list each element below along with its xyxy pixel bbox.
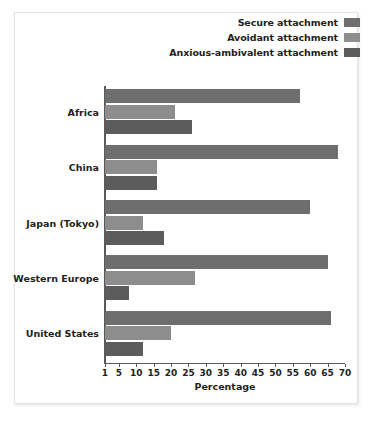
x-axis-tick-label: 1 bbox=[102, 368, 108, 378]
x-axis-tick-label: 35 bbox=[217, 368, 230, 378]
x-axis-tick bbox=[119, 364, 120, 367]
bar bbox=[105, 89, 300, 103]
bar bbox=[105, 286, 129, 300]
bar bbox=[105, 342, 143, 356]
x-axis-tick bbox=[310, 364, 311, 367]
bar bbox=[105, 120, 192, 134]
chart-figure: Secure attachmentAvoidant attachmentAnxi… bbox=[0, 0, 380, 422]
x-axis-tick-label: 65 bbox=[321, 368, 334, 378]
bar bbox=[105, 231, 164, 245]
x-axis-line bbox=[104, 363, 345, 364]
y-axis-category-label: Western Europe bbox=[13, 272, 99, 283]
x-axis-tick bbox=[105, 364, 106, 367]
plot-area: Percentage 1510152025303540455055606570A… bbox=[0, 0, 380, 422]
x-axis-tick bbox=[258, 364, 259, 367]
bar bbox=[105, 271, 195, 285]
y-axis-category-label: Japan (Tokyo) bbox=[26, 217, 99, 228]
bar bbox=[105, 105, 175, 119]
bar bbox=[105, 160, 157, 174]
x-axis-label: Percentage bbox=[194, 381, 255, 392]
x-axis-tick-label: 10 bbox=[130, 368, 143, 378]
bar bbox=[105, 255, 328, 269]
x-axis-tick bbox=[136, 364, 137, 367]
x-axis-tick bbox=[241, 364, 242, 367]
x-axis-tick bbox=[154, 364, 155, 367]
x-axis-tick-label: 60 bbox=[304, 368, 317, 378]
x-axis-tick-label: 30 bbox=[200, 368, 213, 378]
bar bbox=[105, 145, 338, 159]
x-axis-tick bbox=[223, 364, 224, 367]
x-axis-tick-label: 50 bbox=[269, 368, 282, 378]
x-axis-tick-label: 15 bbox=[147, 368, 160, 378]
x-axis-tick bbox=[275, 364, 276, 367]
y-axis-category-label: China bbox=[69, 162, 99, 173]
x-axis-tick bbox=[171, 364, 172, 367]
x-axis-tick bbox=[293, 364, 294, 367]
y-axis-category-label: United States bbox=[26, 328, 99, 339]
x-axis-tick bbox=[188, 364, 189, 367]
x-axis-tick bbox=[328, 364, 329, 367]
bar bbox=[105, 216, 143, 230]
x-axis-tick bbox=[206, 364, 207, 367]
x-axis-tick-label: 70 bbox=[339, 368, 352, 378]
bar bbox=[105, 200, 310, 214]
bar bbox=[105, 176, 157, 190]
x-axis-tick-label: 5 bbox=[116, 368, 122, 378]
x-axis-tick-label: 55 bbox=[287, 368, 300, 378]
x-axis-tick-label: 25 bbox=[182, 368, 195, 378]
bar bbox=[105, 311, 331, 325]
x-axis-tick-label: 40 bbox=[234, 368, 247, 378]
x-axis-tick-label: 45 bbox=[252, 368, 265, 378]
y-axis-category-label: Africa bbox=[68, 106, 99, 117]
x-axis-tick bbox=[345, 364, 346, 367]
x-axis-tick-label: 20 bbox=[165, 368, 178, 378]
bar bbox=[105, 326, 171, 340]
